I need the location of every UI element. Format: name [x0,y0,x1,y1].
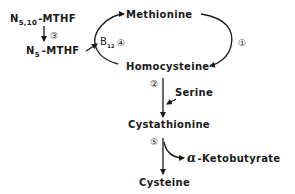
methionine-node: Methionine [126,9,192,20]
arrow-ketobutyrate-output [164,142,184,158]
cystathionine-node: Cystathionine [128,119,210,130]
metabolic-pathway-diagram: N5,10-MTHF ③ N5-MTHF B12 ④ Methionine ① … [0,0,295,194]
ketobutyrate-output-label: α-Ketobutyrate [187,151,280,165]
step-4-label: ④ [117,38,125,48]
homocysteine-node: Homocysteine [126,61,209,72]
arrow-demethylation [201,14,232,66]
arrow-serine-input [167,99,176,104]
step-1-label: ① [238,38,246,48]
serine-input-label: Serine [175,87,213,98]
step-5-label: ⑤ [150,137,158,147]
b12-cofactor-label: B12 [100,36,115,49]
cysteine-node: Cysteine [139,177,190,188]
n510-mthf-label: N5,10-MTHF [10,13,76,27]
step-3-label: ③ [50,31,58,41]
n5-mthf-label: N5-MTHF [26,45,79,59]
step-2-label: ② [150,79,158,89]
